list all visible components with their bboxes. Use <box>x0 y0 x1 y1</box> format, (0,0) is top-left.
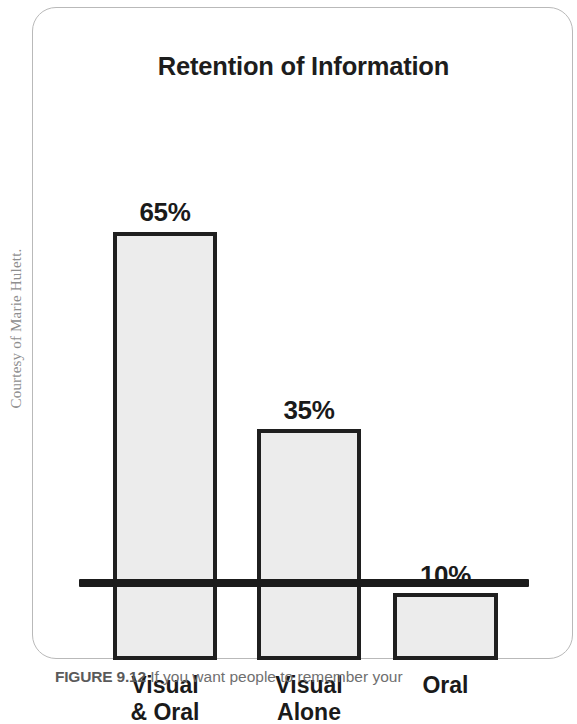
bar-rect-visual-alone <box>257 429 361 660</box>
bar-chart-plot: 65% Visual & Oral 35% Visual Alone 10% O… <box>33 8 574 660</box>
figure-caption-text: If you want people to remember your <box>150 668 402 685</box>
photo-credit: Courtesy of Marie Hulett. <box>8 209 25 409</box>
bar-group-oral: 10% Oral <box>393 88 498 660</box>
figure-caption: FIGURE 9.12 If you want people to rememb… <box>55 668 575 686</box>
bar-value-visual-and-oral: 65% <box>139 197 190 228</box>
bar-group-visual-alone: 35% Visual Alone <box>257 88 361 660</box>
bar-rect-oral <box>393 593 498 660</box>
chart-baseline-axis <box>79 579 529 587</box>
bar-label-line-2: Alone <box>277 699 341 724</box>
figure-number: FIGURE 9.12 <box>55 668 146 685</box>
figure-card: Retention of Information 65% Visual & Or… <box>32 7 573 659</box>
bar-rect-visual-and-oral <box>113 232 217 660</box>
bar-group-visual-and-oral: 65% Visual & Oral <box>113 88 217 660</box>
bar-label-line-2: & Oral <box>130 699 199 724</box>
bar-value-visual-alone: 35% <box>283 395 334 426</box>
